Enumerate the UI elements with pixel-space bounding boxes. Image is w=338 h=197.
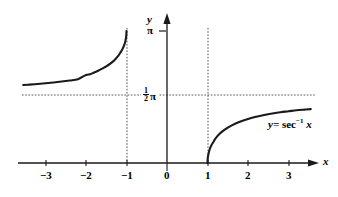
x-tick-label-neg2: −2 (80, 170, 92, 181)
curve-equation-argument: x (306, 118, 312, 130)
curve-equation-prefix: y= (268, 118, 279, 130)
y-tick-label-pi: π (147, 25, 153, 36)
x-tick-label-two: 2 (245, 170, 251, 181)
x-tick-label-three: 3 (286, 170, 292, 181)
half-pi-fraction: 1 2 (143, 87, 149, 103)
curve-equation-label: y= sec−1 x (268, 118, 312, 130)
half-pi-symbol: π (150, 91, 156, 102)
sec-inverse-graph-figure: y x π 1 2 π −3 −2 −1 0 1 2 3 y= sec−1 x (0, 0, 338, 197)
x-axis-label: x (323, 156, 329, 167)
y-tick-label-half-pi: 1 2 π (141, 87, 158, 104)
curve-equation-function: sec (282, 118, 296, 130)
plot-canvas (0, 0, 338, 197)
x-tick-label-neg3: −3 (40, 170, 52, 181)
x-tick-label-neg1: −1 (121, 170, 133, 181)
y-axis-arrowhead (163, 13, 170, 24)
curve-equation-superscript: −1 (296, 117, 304, 125)
x-tick-label-zero: 0 (164, 170, 170, 181)
x-axis-arrowhead (308, 159, 319, 166)
half-pi-denominator: 2 (143, 95, 149, 103)
curve-left-branch (23, 31, 126, 85)
x-tick-label-one: 1 (205, 170, 211, 181)
